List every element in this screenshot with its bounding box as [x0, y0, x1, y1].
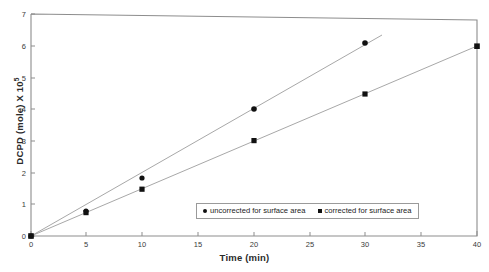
chart-figure: 0 1 2 3 4 5 6 7 0 5 10 15 20 25 30 35 40… — [0, 0, 489, 272]
x-tick-label-15: 15 — [194, 240, 202, 249]
y-tick-label-0: 0 — [12, 232, 26, 241]
square-marker-icon — [318, 209, 322, 213]
y-tick-label-7: 7 — [12, 10, 26, 19]
x-tick-marks — [31, 231, 477, 236]
x-axis-title: Time (min) — [0, 252, 489, 263]
y-tick-marks — [31, 14, 35, 236]
chart-legend: uncorrected for surface area corrected f… — [196, 203, 419, 219]
y-tick-label-6: 6 — [12, 42, 26, 51]
y-axis-title-wrapper: DCPD (mole) X 105 — [9, 51, 27, 191]
x-tick-label-40: 40 — [473, 240, 481, 249]
y-axis-title-exponent: 5 — [13, 77, 20, 81]
legend-label-uncorrected: uncorrected for surface area — [210, 206, 305, 215]
legend-entry-uncorrected: uncorrected for surface area — [203, 207, 305, 215]
y-axis-title: DCPD (mole) X 105 — [13, 77, 25, 164]
x-tick-label-30: 30 — [361, 240, 369, 249]
x-tick-label-25: 25 — [306, 240, 314, 249]
y-axis-title-main: DCPD (mole) X 10 — [14, 81, 25, 164]
circle-marker-icon — [203, 209, 207, 213]
x-tick-label-20: 20 — [250, 240, 258, 249]
legend-label-corrected: corrected for surface area — [325, 206, 412, 215]
x-tick-label-35: 35 — [417, 240, 425, 249]
x-tick-label-0: 0 — [29, 240, 33, 249]
y-tick-label-1: 1 — [12, 200, 26, 209]
legend-entry-corrected: corrected for surface area — [318, 207, 412, 215]
x-tick-label-10: 10 — [138, 240, 146, 249]
x-tick-label-5: 5 — [84, 240, 88, 249]
plot-area — [0, 0, 489, 272]
